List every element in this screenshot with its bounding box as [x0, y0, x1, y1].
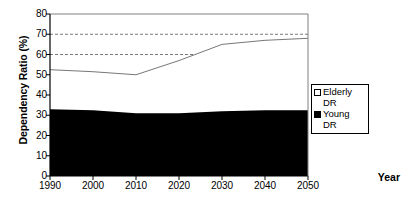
x-tick-label: 2020 — [168, 181, 190, 191]
x-tick-label: 2030 — [211, 181, 233, 191]
x-axis-tick-labels: 1990200020102020203020402050 — [0, 181, 404, 197]
x-axis-title: Year — [378, 171, 400, 183]
x-tick-label: 2000 — [82, 181, 104, 191]
dependency-ratio-chart: Dependency Ratio (%) 01020304050607080 1… — [0, 0, 404, 210]
x-tick-label: 1990 — [39, 181, 61, 191]
x-tick-label: 2050 — [297, 181, 319, 191]
chart-legend: Elderly DR Young DR — [311, 84, 369, 134]
x-tick-label: 2040 — [254, 181, 276, 191]
legend-item-young-dr: Young DR — [314, 109, 365, 130]
legend-label-elderly-dr: Elderly DR — [323, 87, 352, 108]
x-tick-label: 2010 — [125, 181, 147, 191]
legend-item-elderly-dr: Elderly DR — [314, 87, 365, 108]
legend-swatch-open-square-icon — [314, 89, 321, 96]
legend-label-young-dr: Young DR — [323, 109, 350, 130]
area-young-dr — [50, 109, 308, 176]
legend-swatch-solid-square-icon — [314, 111, 321, 118]
